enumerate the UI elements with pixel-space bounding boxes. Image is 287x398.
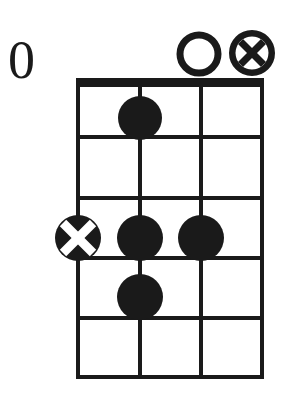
open-string-marker-icon xyxy=(180,35,218,73)
string-line-4 xyxy=(260,78,264,379)
chord-diagram-canvas: 0 xyxy=(0,0,287,398)
muted-string-marker-icon xyxy=(232,33,272,73)
fret-line-5 xyxy=(77,375,263,379)
fret-lines xyxy=(77,135,263,379)
fret-line-4 xyxy=(77,316,263,320)
nut-bar xyxy=(77,78,263,87)
fret-position-label: 0 xyxy=(8,30,35,90)
finger-dot-string2-fret1 xyxy=(118,96,162,140)
chord-diagram-page: 0 xyxy=(0,0,287,398)
string-lines xyxy=(76,78,264,379)
finger-dot-string2-fret3 xyxy=(117,215,163,261)
finger-dot-string2-fret4 xyxy=(117,274,163,320)
finger-dot-string3-fret3 xyxy=(178,215,224,261)
fret-line-3 xyxy=(77,256,263,260)
fret-line-1 xyxy=(77,135,263,139)
finger-dot-string1-fret3-crossed xyxy=(55,215,101,261)
fret-line-2 xyxy=(77,196,263,200)
